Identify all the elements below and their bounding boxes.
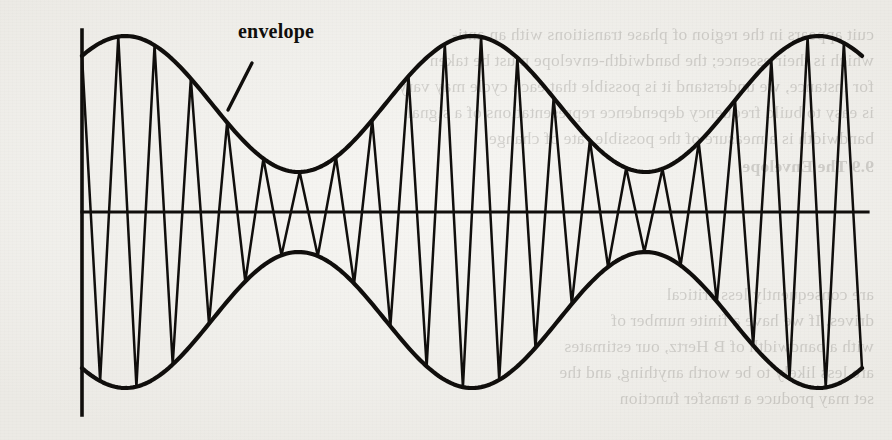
- figure-page: cuit appears in the region of phase tran…: [0, 0, 892, 440]
- am-waveform-figure: [0, 0, 892, 440]
- envelope-leader-line: [228, 63, 252, 110]
- envelope-label: envelope: [238, 20, 314, 43]
- upper-envelope-curve: [82, 36, 862, 172]
- lower-envelope-curve: [82, 252, 862, 388]
